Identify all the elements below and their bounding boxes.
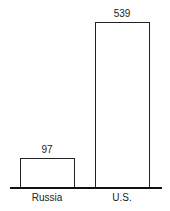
bar-value-russia: 97	[17, 144, 77, 155]
x-axis-line	[10, 187, 162, 189]
bar-value-us: 539	[92, 8, 152, 19]
category-label-us: U.S.	[92, 192, 152, 203]
bar-us	[95, 22, 150, 188]
bar-russia	[20, 158, 75, 188]
category-label-russia: Russia	[17, 192, 77, 203]
